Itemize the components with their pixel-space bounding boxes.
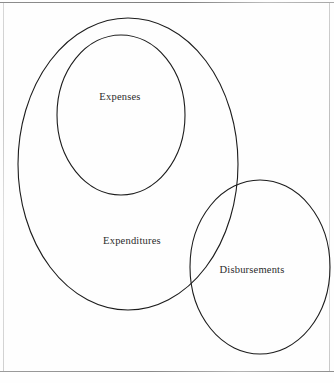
set-ellipse-expenditures: [18, 18, 238, 310]
euler-diagram: [0, 0, 334, 383]
set-ellipse-expenses: [57, 35, 185, 195]
set-label-disbursements: Disbursements: [219, 264, 284, 275]
set-label-expenditures: Expenditures: [103, 235, 161, 246]
set-label-expenses: Expenses: [99, 91, 140, 102]
document-page: Expenses Expenditures Disbursements: [0, 0, 334, 383]
